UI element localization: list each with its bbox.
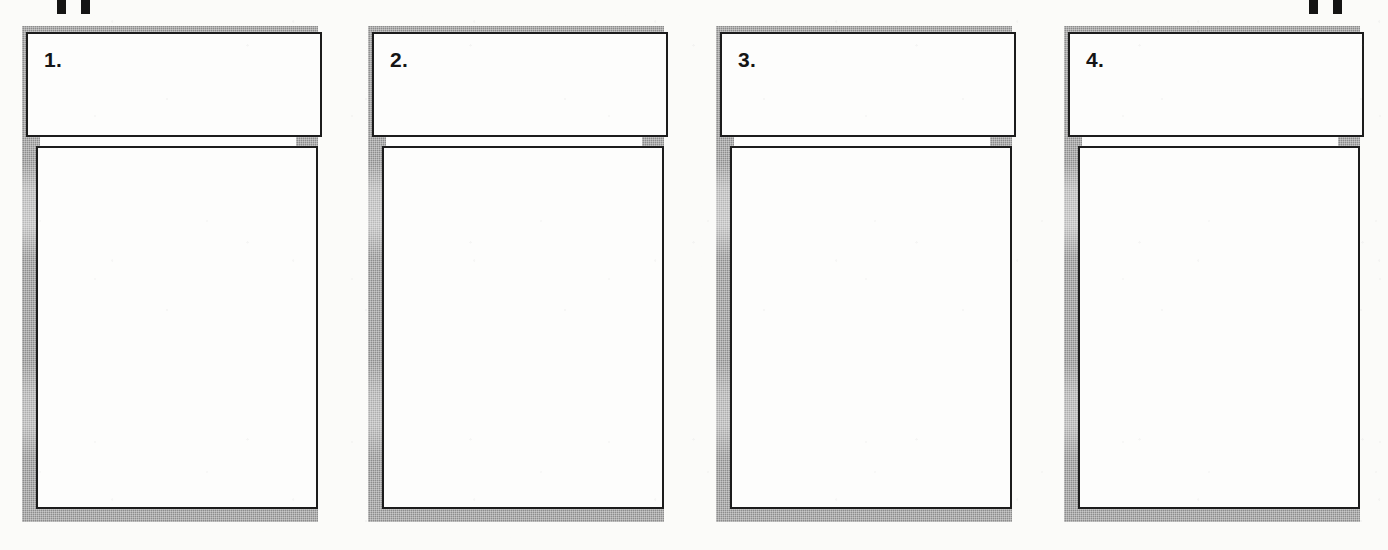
scanned-page: 1. 2. [0,0,1388,550]
panel-title-box[interactable]: 4. [1068,32,1364,137]
panel-3[interactable]: 3. [694,6,1034,544]
panel-2[interactable]: 2. [346,6,686,544]
crop-mark-icon [57,0,66,14]
box-gap-sliver [40,137,296,146]
panel-body-box[interactable] [382,146,664,509]
panel-number: 2. [390,48,408,72]
panel-number: 1. [44,48,62,72]
crop-mark-icon [81,0,90,14]
box-gap-sliver [1082,137,1338,146]
box-gap-sliver [386,137,642,146]
panel-title-box[interactable]: 2. [372,32,668,137]
panel-body-box[interactable] [730,146,1012,509]
panel-body-box[interactable] [36,146,318,509]
panel-title-box[interactable]: 3. [720,32,1016,137]
crop-mark-icon [1309,0,1318,14]
panel-number: 4. [1086,48,1104,72]
panel-title-box[interactable]: 1. [26,32,322,137]
box-gap-sliver [734,137,990,146]
crop-mark-icon [1333,0,1342,14]
panel-1[interactable]: 1. [0,6,340,544]
panel-number: 3. [738,48,756,72]
panel-body-box[interactable] [1078,146,1360,509]
panel-4[interactable]: 4. [1042,6,1382,544]
